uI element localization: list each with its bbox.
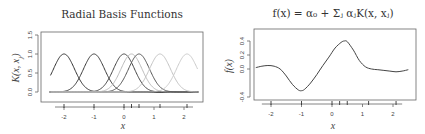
right-y-axis-label: f(x) (223, 58, 235, 73)
left-curves (49, 54, 199, 92)
x-tick-label: -2 (61, 114, 67, 120)
left-panel-rbf: Radial Basis Functions -2-1012 0.00.51.0… (10, 8, 203, 131)
y-tick-label: 0.5 (27, 68, 33, 77)
right-chart-title: f(x) = α₀ + Σⱼ αⱼK(x, xⱼ) (273, 7, 394, 19)
right-plot-frame (254, 29, 416, 100)
x-tick-label: 0 (330, 111, 334, 117)
y-tick-label: 0.2 (239, 50, 245, 59)
x-tick-label: 2 (391, 111, 395, 117)
x-tick-label: -1 (299, 111, 305, 117)
left-y-axis-label: K(x, xj) (10, 53, 25, 84)
left-x-axis-label: x (120, 120, 126, 131)
right-x-axis-label: x (330, 120, 336, 131)
rbf-curve (51, 54, 198, 92)
y-tick-label: 0.0 (239, 64, 245, 73)
right-curves (256, 41, 408, 91)
rbf-curve (51, 54, 198, 92)
chart-canvas: Radial Basis Functions -2-1012 0.00.51.0… (0, 0, 425, 134)
y-tick-label: 0.4 (239, 36, 245, 45)
rbf-curve (51, 54, 198, 92)
x-tick-label: 2 (182, 114, 186, 120)
rbf-curve (51, 54, 198, 92)
right-panel-fx: f(x) = α₀ + Σⱼ αⱼK(x, xⱼ) -2-1012 -0.40.… (223, 7, 416, 131)
fx-curve (256, 41, 408, 91)
left-chart-title: Radial Basis Functions (61, 8, 183, 20)
right-y-axis: -0.40.00.20.4 (239, 36, 250, 102)
y-tick-label: 1.5 (27, 30, 33, 39)
rbf-curve (51, 54, 198, 92)
rbf-curve (51, 54, 198, 92)
y-tick-label: -0.4 (239, 91, 245, 102)
x-tick-label: -2 (268, 111, 274, 117)
y-tick-label: 1.0 (27, 49, 33, 58)
x-tick-label: 1 (152, 114, 156, 120)
rbf-curve (51, 54, 198, 92)
left-x-axis: -2-1012 (55, 104, 193, 120)
left-y-axis: 0.00.51.01.5 (27, 30, 38, 96)
y-tick-label: 0.0 (27, 87, 33, 96)
right-x-axis: -2-1012 (262, 101, 402, 117)
x-tick-label: -1 (91, 114, 97, 120)
x-tick-label: 1 (361, 111, 365, 117)
